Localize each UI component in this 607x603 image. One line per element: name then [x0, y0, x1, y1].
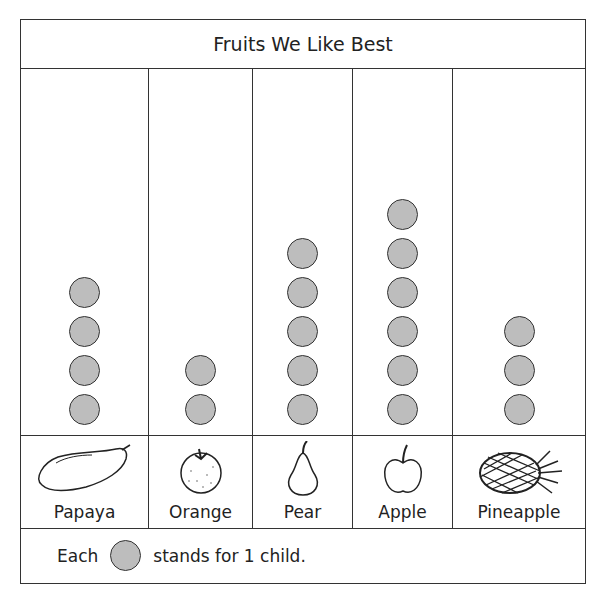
category-label: Pineapple [453, 502, 585, 522]
pictograph-circle [69, 394, 100, 425]
pictograph-circle [387, 394, 418, 425]
column-pineapple [453, 68, 585, 435]
category-label: Apple [353, 502, 452, 522]
pictograph-circle [69, 316, 100, 347]
category-labels: Papaya Orange Pear Apple Pineapple [21, 435, 585, 529]
pear-icon [253, 441, 352, 497]
legend-key: Each stands for 1 child. [21, 528, 585, 583]
pictograph-circle [387, 238, 418, 269]
pictograph-circle [287, 316, 318, 347]
column-apple [353, 68, 453, 435]
pictograph-circle [287, 355, 318, 386]
label-cell-pear: Pear [253, 435, 353, 528]
chart-title: Fruits We Like Best [21, 20, 585, 69]
pictograph-circle [504, 394, 535, 425]
pictograph-circle [387, 316, 418, 347]
label-cell-orange: Orange [149, 435, 253, 528]
pictograph-circle [504, 355, 535, 386]
papaya-icon [21, 441, 148, 497]
plot-area [21, 68, 585, 436]
pineapple-icon [453, 441, 585, 497]
key-prefix: Each [57, 546, 98, 566]
pictograph-circle [185, 355, 216, 386]
category-label: Pear [253, 502, 352, 522]
label-cell-pineapple: Pineapple [453, 435, 585, 528]
key-circle-icon [110, 540, 141, 571]
column-papaya [21, 68, 149, 435]
pictograph-circle [387, 277, 418, 308]
pictograph-circle [69, 355, 100, 386]
pictograph-circle [287, 277, 318, 308]
label-cell-papaya: Papaya [21, 435, 149, 528]
label-cell-apple: Apple [353, 435, 453, 528]
column-orange [149, 68, 253, 435]
category-label: Papaya [21, 502, 148, 522]
orange-icon [149, 441, 252, 497]
column-pear [253, 68, 353, 435]
pictograph-circle [387, 199, 418, 230]
key-suffix: stands for 1 child. [153, 546, 306, 566]
pictograph-circle [287, 394, 318, 425]
pictograph-circle [387, 355, 418, 386]
apple-icon [353, 441, 452, 497]
pictograph-circle [69, 277, 100, 308]
category-label: Orange [149, 502, 252, 522]
pictograph-chart: Fruits We Like Best Papaya Orange Pear [20, 19, 586, 584]
pictograph-circle [185, 394, 216, 425]
pictograph-circle [504, 316, 535, 347]
pictograph-circle [287, 238, 318, 269]
